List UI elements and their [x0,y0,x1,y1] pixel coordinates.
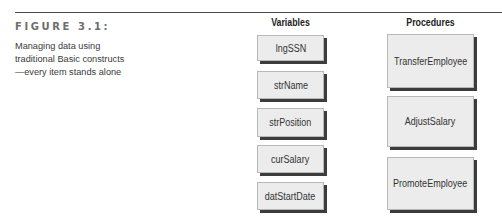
variable-label: lngSSN [275,43,306,54]
top-rule [15,12,502,13]
variable-label: strName [273,80,307,91]
figure-caption: Managing data using traditional Basic co… [15,40,125,79]
procedure-box-transferemployee: TransferEmployee [387,34,474,88]
variable-box-datstartdate: datStartDate [257,182,324,210]
variable-box-lngssn: lngSSN [257,35,324,61]
variable-box-cursalary: curSalary [257,145,324,173]
variable-label: datStartDate [265,191,316,202]
variables-header: Variables [261,17,320,28]
procedure-label: AdjustSalary [405,116,456,127]
figure-caption-text: Managing data using traditional Basic co… [15,41,124,77]
procedure-label: PromoteEmployee [393,178,467,189]
variable-label: curSalary [271,154,309,165]
procedure-label: TransferEmployee [394,56,467,67]
variable-box-strposition: strPosition [257,108,324,137]
procedure-box-promoteemployee: PromoteEmployee [387,157,474,210]
procedures-header: Procedures [392,17,469,28]
figure-label: FIGURE 3.1: [15,21,110,32]
variable-box-strname: strName [257,71,324,99]
procedure-box-adjustsalary: AdjustSalary [387,96,474,147]
variable-label: strPosition [269,117,311,128]
